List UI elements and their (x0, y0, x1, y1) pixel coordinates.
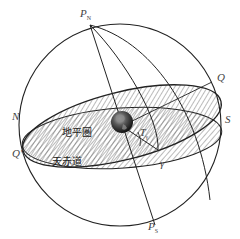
horizon-south-label: S (225, 114, 231, 125)
equator-plane-label: 天赤道 (52, 157, 82, 167)
horizon-plane-label: 地平圏 (62, 128, 92, 138)
horizon-north-label: N (12, 111, 19, 122)
hour-angle-label: Tγ (140, 128, 148, 140)
q-label: Q (217, 72, 225, 83)
celestial-sphere-diagram (0, 0, 240, 239)
north-pole-label: PN (80, 8, 91, 21)
q-prime-label: Q' (12, 148, 22, 159)
vernal-equinox-label: γ (160, 158, 164, 169)
south-pole-label: PS (148, 221, 158, 234)
